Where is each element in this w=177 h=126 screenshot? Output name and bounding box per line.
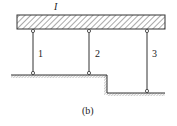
beam-label: I [54,2,57,12]
rod-1-label: 1 [38,49,43,59]
rod-3 [145,29,148,92]
rigid-beam [17,15,165,29]
rod-2 [87,29,90,74]
stepped-ground [11,75,165,96]
rod-2-label: 2 [95,49,100,59]
rod-1 [31,29,34,74]
rod-3-label: 3 [152,49,157,59]
figure-caption: (b) [82,106,94,116]
